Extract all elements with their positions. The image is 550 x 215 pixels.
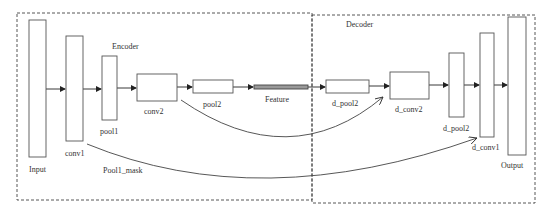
d-conv2-label: d_conv2 xyxy=(395,105,423,114)
d-conv2-block xyxy=(390,72,429,99)
pool1-mask-label: Pool1_mask xyxy=(103,166,143,175)
d-conv1-block xyxy=(480,33,494,137)
output-block xyxy=(508,17,526,155)
feature-label: Feature xyxy=(265,95,289,104)
conv2-label: conv2 xyxy=(144,107,164,116)
pool1-mask-connection xyxy=(87,138,477,178)
decoder-group-box xyxy=(312,15,535,203)
conv2-block xyxy=(137,74,177,101)
pool2-label: pool2 xyxy=(203,100,221,109)
encoder-label: Encoder xyxy=(112,42,139,51)
encoder-decoder-diagram: Encoder Decoder Pool1_mask Input conv1 p… xyxy=(0,0,550,215)
input-block xyxy=(29,20,46,157)
encoder-group-box xyxy=(17,13,312,200)
pool1-label: pool1 xyxy=(100,127,118,136)
d-pool2-first-label: d_pool2 xyxy=(332,99,358,108)
decoder-label: Decoder xyxy=(346,20,373,29)
d-pool2-second-label: d_pool2 xyxy=(443,124,469,133)
conv1-block xyxy=(66,36,83,141)
d-pool2-first-block xyxy=(326,80,369,93)
pool1-block xyxy=(102,56,117,120)
output-label: Output xyxy=(501,161,524,170)
feature-block xyxy=(254,85,308,89)
input-label: Input xyxy=(29,165,47,174)
conv1-label: conv1 xyxy=(65,149,85,158)
d-pool2-second-block xyxy=(449,53,464,117)
pool2-block xyxy=(193,80,233,93)
d-conv1-label: d_conv1 xyxy=(472,143,500,152)
